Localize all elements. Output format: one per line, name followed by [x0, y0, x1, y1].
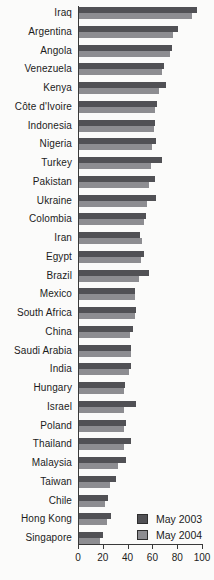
bar-group — [78, 195, 202, 207]
x-tick-label: 100 — [190, 552, 214, 563]
country-label: Thailand — [0, 438, 78, 450]
chart-row: Venezuela — [0, 63, 202, 75]
legend-swatch — [137, 514, 148, 524]
bar-may-2004 — [78, 444, 124, 450]
bar-group — [78, 101, 202, 113]
chart-row: Thailand — [0, 438, 202, 450]
legend-label: May 2003 — [156, 513, 202, 525]
bar-group — [78, 476, 202, 488]
country-label: Iran — [0, 232, 78, 244]
legend-item: May 2003 — [137, 513, 202, 524]
x-tick-label: 40 — [116, 552, 140, 563]
country-label: Côte d'Ivoire — [0, 101, 78, 113]
bar-group — [78, 45, 202, 57]
chart-row: Iran — [0, 232, 202, 244]
bar-group — [78, 457, 202, 469]
bar-may-2004 — [78, 501, 105, 507]
y-axis-line — [78, 6, 79, 545]
country-label: Argentina — [0, 26, 78, 38]
bar-may-2004 — [78, 463, 118, 469]
chart-row: Iraq — [0, 7, 202, 19]
bar-chart: IraqArgentinaAngolaVenezuelaKenyaCôte d'… — [0, 0, 214, 580]
chart-rows: IraqArgentinaAngolaVenezuelaKenyaCôte d'… — [0, 7, 202, 544]
chart-row: Turkey — [0, 157, 202, 169]
bar-group — [78, 288, 202, 300]
x-tick-label: 20 — [91, 552, 115, 563]
country-label: Egypt — [0, 251, 78, 263]
chart-row: Côte d'Ivoire — [0, 101, 202, 113]
bar-group — [78, 363, 202, 375]
bar-group — [78, 251, 202, 263]
chart-row: South Africa — [0, 307, 202, 319]
bar-may-2004 — [78, 201, 147, 207]
country-label: Chile — [0, 495, 78, 507]
bar-group — [78, 213, 202, 225]
country-label: Taiwan — [0, 476, 78, 488]
country-label: Angola — [0, 45, 78, 57]
country-label: Mexico — [0, 288, 78, 300]
country-label: Iraq — [0, 7, 78, 19]
bar-may-2004 — [78, 519, 107, 525]
country-label: Turkey — [0, 157, 78, 169]
bar-may-2004 — [78, 426, 124, 432]
country-label: Pakistan — [0, 176, 78, 188]
chart-row: Kenya — [0, 82, 202, 94]
x-tick — [128, 545, 129, 549]
bar-group — [78, 7, 202, 19]
bar-group — [78, 326, 202, 338]
country-label: Hungary — [0, 382, 78, 394]
legend-label: May 2004 — [156, 529, 202, 541]
bar-group — [78, 63, 202, 75]
legend-swatch — [137, 530, 148, 540]
country-label: Israel — [0, 401, 78, 413]
chart-row: China — [0, 326, 202, 338]
bar-group — [78, 438, 202, 450]
bar-group — [78, 82, 202, 94]
legend-item: May 2004 — [137, 529, 202, 540]
bar-may-2004 — [78, 182, 149, 188]
chart-row: Egypt — [0, 251, 202, 263]
x-tick-label: 80 — [165, 552, 189, 563]
bar-may-2004 — [78, 276, 139, 282]
chart-row: Poland — [0, 420, 202, 432]
chart-row: Malaysia — [0, 457, 202, 469]
bar-may-2004 — [78, 144, 152, 150]
chart-row: Colombia — [0, 213, 202, 225]
x-tick — [202, 545, 203, 549]
chart-row: India — [0, 363, 202, 375]
bar-group — [78, 420, 202, 432]
country-label: South Africa — [0, 307, 78, 319]
bar-group — [78, 345, 202, 357]
country-label: Malaysia — [0, 457, 78, 469]
country-label: Ukraine — [0, 195, 78, 207]
bar-may-2004 — [78, 163, 151, 169]
country-label: Singapore — [0, 532, 78, 544]
country-label: Hong Kong — [0, 513, 78, 525]
bar-group — [78, 138, 202, 150]
bar-may-2004 — [78, 13, 192, 19]
bar-group — [78, 157, 202, 169]
bar-may-2004 — [78, 257, 141, 263]
chart-row: Chile — [0, 495, 202, 507]
bar-group — [78, 232, 202, 244]
bar-may-2004 — [78, 332, 130, 338]
chart-row: Hungary — [0, 382, 202, 394]
bar-may-2004 — [78, 126, 154, 132]
bar-may-2004 — [78, 32, 173, 38]
bar-group — [78, 120, 202, 132]
x-axis-line — [78, 544, 203, 545]
x-tick — [177, 545, 178, 549]
bar-group — [78, 26, 202, 38]
bar-group — [78, 307, 202, 319]
x-tick — [152, 545, 153, 549]
bar-may-2004 — [78, 107, 155, 113]
chart-row: Mexico — [0, 288, 202, 300]
x-tick — [78, 545, 79, 549]
bar-may-2004 — [78, 369, 129, 375]
legend: May 2003May 2004 — [137, 513, 202, 540]
bar-may-2004 — [78, 69, 162, 75]
country-label: Colombia — [0, 213, 78, 225]
country-label: Kenya — [0, 82, 78, 94]
bar-may-2004 — [78, 88, 159, 94]
chart-row: Pakistan — [0, 176, 202, 188]
